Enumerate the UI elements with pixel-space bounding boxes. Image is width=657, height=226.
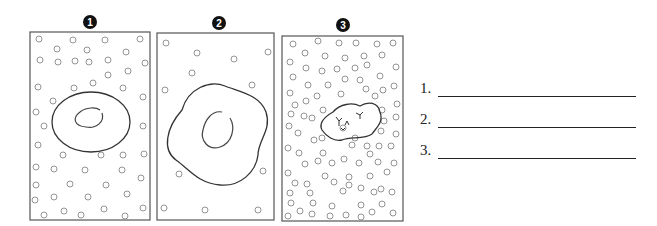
solute-particles [161,40,271,213]
nucleus [75,108,102,127]
panel-badge-1: 1 [83,15,97,29]
cell-membrane [52,92,130,152]
answer-label-2: 2. [420,111,436,128]
answer-row-3: 3. [420,142,636,159]
answer-blank-2[interactable] [438,113,636,128]
shrunken-cell-membrane [321,103,381,140]
svg-text:3: 3 [340,20,346,31]
answer-row-1: 1. [420,80,636,97]
panel-badge-3: 3 [336,18,350,32]
nucleus [202,112,232,148]
panel-1 [30,32,150,220]
answer-blank-3[interactable] [438,144,636,159]
answer-blank-1[interactable] [438,82,636,97]
answer-label-1: 1. [420,80,436,97]
svg-text:2: 2 [216,18,222,29]
panel-3 [282,36,403,221]
svg-text:1: 1 [87,17,93,28]
panel-2 [157,33,274,220]
osmosis-diagram: 1 2 3 [0,0,420,226]
panel-badge-2: 2 [212,16,226,30]
answer-label-3: 3. [420,142,436,159]
answer-row-2: 2. [420,111,636,128]
cell-membrane [167,84,267,185]
